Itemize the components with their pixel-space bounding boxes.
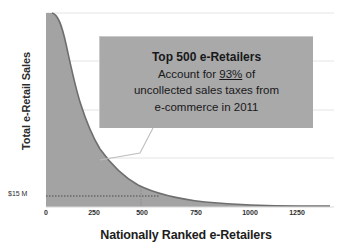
callout-line-4: e-commerce in 2011 — [155, 100, 259, 115]
x-tick-label-1000: 1000 — [242, 209, 258, 216]
callout-line-1: Top 500 e-Retailers — [152, 50, 261, 66]
callout-leader-line — [100, 128, 153, 160]
callout-line-2-pre: Account for — [158, 68, 219, 80]
callout-line-3: uncollected sales taxes from — [134, 83, 279, 98]
x-tick-label-1250: 1250 — [289, 209, 305, 216]
callout-line-2: Account for 93% of — [158, 67, 255, 82]
x-tick-label-750: 750 — [190, 209, 202, 216]
top-500-callout: Top 500 e-Retailers Account for 93% of u… — [99, 36, 313, 128]
x-tick-label-0: 0 — [44, 209, 48, 216]
y-axis-title: Total e-Retail Sales — [20, 31, 32, 171]
callout-highlight-93: 93% — [219, 68, 242, 80]
y-tick-label-15m: $15 M — [8, 190, 27, 197]
x-tick-label-250: 250 — [88, 209, 100, 216]
x-axis-title: Nationally Ranked e-Retailers — [30, 228, 342, 242]
chart-container: Total e-Retail Sales $15 M 0 250 500 750… — [0, 0, 342, 252]
x-tick-label-500: 500 — [136, 209, 148, 216]
callout-line-2-post: of — [242, 68, 255, 80]
